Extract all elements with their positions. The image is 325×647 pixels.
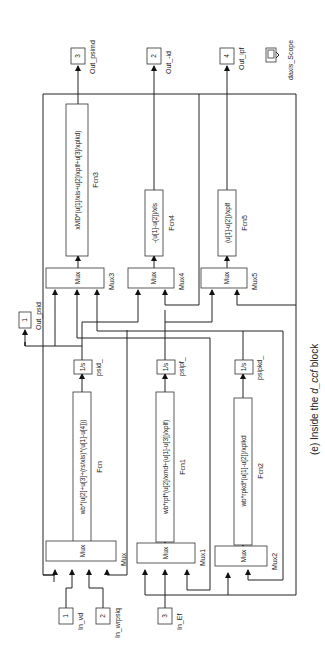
figure-caption: (e) Inside the d_ccf block xyxy=(309,343,320,455)
scope-label: daxis_Scope xyxy=(287,40,295,80)
mux5-input2-line xyxy=(237,290,296,305)
mux-in1-stub xyxy=(43,575,54,582)
mux5-block[interactable]: Mux Mux5 xyxy=(201,268,258,290)
out-ipf-label: Out_ipf xyxy=(238,47,246,70)
mux1-label: Mux1 xyxy=(199,549,206,566)
svg-text:Mux: Mux xyxy=(223,271,230,284)
svg-text:4: 4 xyxy=(223,54,230,58)
mux-in1-line xyxy=(43,570,55,575)
mux1-block[interactable]: Mux Mux1 xyxy=(137,543,206,566)
integrator-psipkd[interactable]: 1/s psipkd_ xyxy=(235,356,264,380)
out-id-label: Out_-id xyxy=(165,51,173,74)
fcn2-label: Fcn2 xyxy=(257,463,264,479)
in-vd-label: In_vd xyxy=(77,613,85,630)
mux5-label: Mux5 xyxy=(251,273,258,290)
svg-text:Mux: Mux xyxy=(79,544,86,557)
inport-in-vd[interactable]: 1 In_vd xyxy=(59,608,85,630)
mux3-label: Mux3 xyxy=(108,273,115,290)
psipf-to-mux5-in1 xyxy=(165,290,212,360)
svg-text:Mux: Mux xyxy=(162,546,169,559)
psipf-label: psipf_ xyxy=(178,357,186,376)
mux4-label: Mux4 xyxy=(178,273,185,290)
in-wrpsiq-label: In_wrpsiq xyxy=(114,608,122,638)
outport-out-psid[interactable]: 1 Out_psid xyxy=(19,302,43,330)
psid-out-line xyxy=(25,342,82,360)
fcn2-block[interactable]: wb*rpkd*(u[1]-u[2])/xplkd Fcn2 xyxy=(234,398,264,545)
svg-text:1: 1 xyxy=(62,614,69,618)
fcn5-label: Fcn5 xyxy=(241,215,248,231)
fcn4-expr: -(u[1]-u[2])/xls xyxy=(151,202,159,243)
mux2-block[interactable]: Mux Mux2 xyxy=(215,546,278,570)
fcn-label: Fcn xyxy=(96,461,103,473)
fcn3-block[interactable]: xMD*(u[1]/xls+u[2]/xplf+u[3]/xplkd) Fcn3 xyxy=(66,104,99,256)
scope-port-icon xyxy=(276,52,279,58)
mux-label: Mux xyxy=(120,552,127,566)
svg-text:2: 2 xyxy=(150,54,157,58)
outport-out-ipf[interactable]: 4 Out_ipf xyxy=(220,47,246,70)
integrator-psid[interactable]: 1/s psid_ xyxy=(74,359,103,376)
in-wrpsiq-to-mux xyxy=(89,570,103,608)
svg-text:Mux: Mux xyxy=(74,271,81,284)
inport-in-ef[interactable]: 3 In_Ef xyxy=(158,608,184,630)
out-psimd-label: Out_psimd xyxy=(89,40,97,74)
mux2-label: Mux2 xyxy=(271,553,278,570)
svg-text:1/s: 1/s xyxy=(240,362,247,371)
outport-out-id[interactable]: 2 Out_-id xyxy=(147,48,173,74)
svg-text:3: 3 xyxy=(161,614,168,618)
mux-block[interactable]: Mux Mux xyxy=(46,541,127,566)
out-psid-label: Out_psid xyxy=(35,302,43,330)
fcn3-expr: xMD*(u[1]/xls+u[2]/xplf+u[3]/xplkd) xyxy=(74,131,82,230)
outport-out-psimd[interactable]: 3 Out_psimd xyxy=(71,40,97,74)
fcn5-block[interactable]: (u[1]-u[2])/xplf Fcn5 xyxy=(218,190,248,256)
fcn2-expr: wb*rpkd*(u[1]-u[2])/xplkd xyxy=(240,435,248,508)
svg-text:Mux: Mux xyxy=(150,271,157,284)
svg-text:1/s: 1/s xyxy=(79,362,86,371)
fcn3-label: Fcn3 xyxy=(92,172,99,188)
mux3-block[interactable]: Mux Mux3 xyxy=(46,268,115,290)
inport-in-wrpsiq[interactable]: 2 In_wrpsiq xyxy=(96,608,122,638)
in-ef-label: In_Ef xyxy=(176,614,184,630)
fcn1-block[interactable]: wb*rpf*(u[2]/xmd+(u[1]-u[3])/xplf) Fcn1 xyxy=(156,392,186,542)
in-vd-to-mux xyxy=(66,570,72,608)
fcn4-block[interactable]: -(u[1]-u[2])/xls Fcn4 xyxy=(145,190,175,256)
svg-text:Mux: Mux xyxy=(240,549,247,562)
svg-text:1: 1 xyxy=(21,318,28,322)
fcn5-expr: (u[1]-u[2])/xplf xyxy=(224,203,232,243)
svg-text:2: 2 xyxy=(99,614,106,618)
psid-label: psid_ xyxy=(95,359,103,376)
fcn-expr: wb*(u[2]+u[3]+(rs/xls)*(u[1]-u[4])) xyxy=(79,420,87,516)
fcn-block[interactable]: wb*(u[2]+u[3]+(rs/xls)*(u[1]-u[4])) Fcn xyxy=(73,392,103,542)
mux4-block[interactable]: Mux Mux4 xyxy=(128,268,185,290)
svg-text:3: 3 xyxy=(74,54,81,58)
fcn4-label: Fcn4 xyxy=(168,215,175,231)
simulink-diagram: 1 Out_psid 3 Out_psimd 2 Out_-id 4 Out_i… xyxy=(0,0,325,647)
daxis-scope[interactable]: daxis_Scope xyxy=(266,40,295,80)
mux1-in3-line xyxy=(187,570,210,590)
svg-text:1/s: 1/s xyxy=(162,362,169,371)
psipkd-label: psipkd_ xyxy=(256,356,264,380)
integrator-psipf[interactable]: 1/s psipf_ xyxy=(157,357,186,376)
fcn1-label: Fcn1 xyxy=(179,459,186,475)
psid-feedback-to-mux xyxy=(107,330,127,575)
fcn1-expr: wb*rpf*(u[2]/xmd+(u[1]-u[3])/xplf) xyxy=(162,420,170,515)
